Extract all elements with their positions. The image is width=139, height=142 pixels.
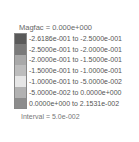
legend-swatch [14, 87, 27, 98]
legend-label: 0.0000e+000 to 2.1531e-002 [29, 99, 119, 108]
legend-swatch [14, 44, 27, 55]
legend-label: -1.5000e-001 to -1.0000e-001 [29, 66, 122, 75]
legend-swatch [14, 76, 27, 87]
legend-label: -2.5000e-001 to -2.0000e-001 [29, 45, 122, 54]
legend-row: -2.5000e-001 to -2.0000e-001 [14, 44, 122, 55]
legend-label: -1.0000e-001 to -5.0000e-002 [29, 77, 122, 86]
interval-label: Interval = 5.0e-002 [21, 112, 80, 121]
legend-label: -2.6186e-001 to -2.5000e-001 [29, 34, 122, 43]
legend-swatch [14, 55, 27, 66]
legend-row: -5.0000e-002 to 0.0000e+000 [14, 87, 122, 98]
color-legend: -2.6186e-001 to -2.5000e-001 -2.5000e-00… [14, 33, 122, 109]
legend-row: -1.0000e-001 to -5.0000e-002 [14, 76, 122, 87]
legend-swatch [14, 98, 27, 109]
legend-swatch [14, 33, 27, 44]
legend-row: -2.0000e-001 to -1.5000e-001 [14, 55, 122, 66]
legend-title: Magfac = 0.000e+000 [19, 23, 92, 32]
legend-swatch [14, 65, 27, 76]
legend-label: -2.0000e-001 to -1.5000e-001 [29, 55, 122, 64]
legend-label: -5.0000e-002 to 0.0000e+000 [29, 88, 121, 97]
legend-row: -2.6186e-001 to -2.5000e-001 [14, 33, 122, 44]
legend-row: -1.5000e-001 to -1.0000e-001 [14, 65, 122, 76]
legend-row: 0.0000e+000 to 2.1531e-002 [14, 98, 122, 109]
